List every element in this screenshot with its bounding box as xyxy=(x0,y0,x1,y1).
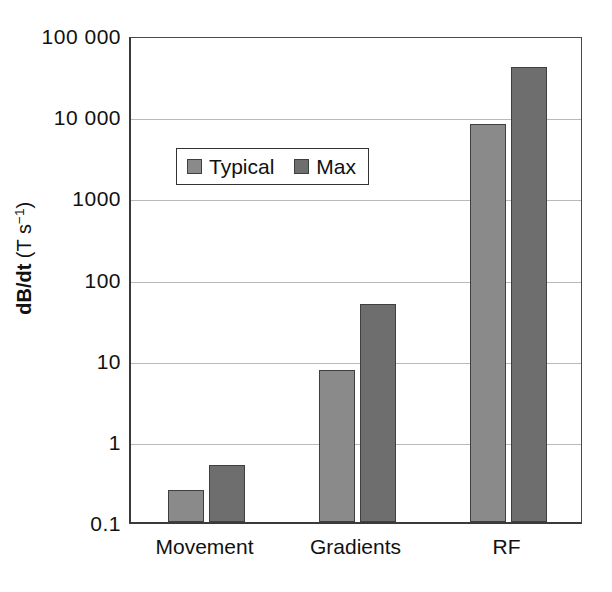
y-axis-tick-label: 100 xyxy=(25,270,121,291)
y-axis-title: dB/dt (T s−1) xyxy=(12,148,37,368)
x-axis-label-rf: RF xyxy=(431,536,582,558)
y-axis-tick-label: 10 000 xyxy=(25,107,121,128)
legend-item-max: Max xyxy=(294,156,356,177)
y-axis-tick-label: 1 xyxy=(25,432,121,453)
legend-label-max: Max xyxy=(316,156,356,177)
y-axis-title-unit-open: (T s xyxy=(13,224,35,264)
y-axis-title-unit-exp: −1 xyxy=(13,209,35,225)
y-axis-tick-label: 100 000 xyxy=(25,26,121,47)
bar-gradients-typical xyxy=(319,370,355,522)
y-axis-tick-label: 10 xyxy=(25,351,121,372)
bar-movement-typical xyxy=(168,490,204,522)
x-axis-label-movement: Movement xyxy=(129,536,280,558)
legend-item-typical: Typical xyxy=(187,156,274,177)
y-axis-tick-label: 0.1 xyxy=(25,513,121,534)
x-axis-label-gradients: Gradients xyxy=(280,536,431,558)
plot-area xyxy=(129,37,582,524)
legend-swatch-typical-icon xyxy=(187,159,202,174)
bar-movement-max xyxy=(209,465,245,522)
bar-gradients-max xyxy=(360,304,396,522)
legend-label-typical: Typical xyxy=(209,156,274,177)
bar-rf-typical xyxy=(470,124,506,522)
legend: Typical Max xyxy=(176,148,369,185)
legend-swatch-max-icon xyxy=(294,159,309,174)
bar-chart: dB/dt (T s−1) 100 00010 00010001001010.1… xyxy=(0,0,612,592)
y-axis-tick-label: 1000 xyxy=(25,188,121,209)
bar-rf-max xyxy=(511,67,547,522)
